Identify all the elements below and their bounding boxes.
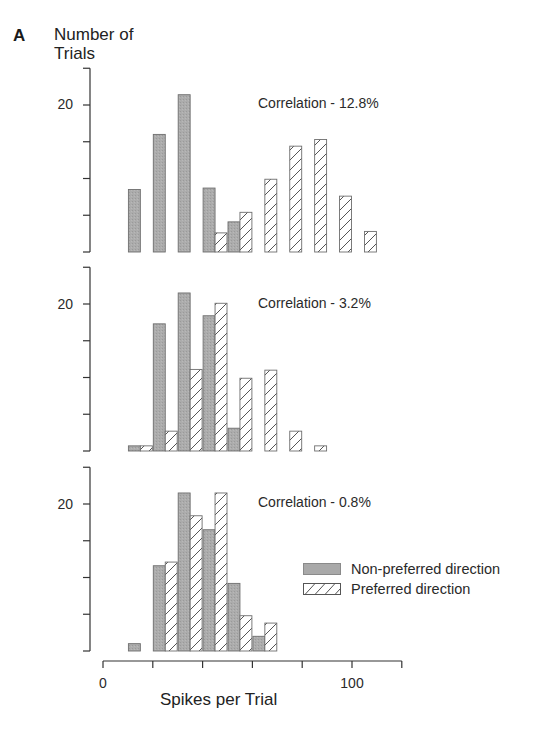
x-axis [103, 661, 402, 668]
bar-preferred [190, 369, 202, 451]
panel-1-ytick-20: 20 [51, 96, 73, 112]
xtick-label-100: 100 [340, 675, 363, 691]
bar-preferred [265, 370, 277, 451]
y-axis-label-line1: Number of [54, 25, 133, 44]
bar-preferred [215, 493, 227, 651]
bar-preferred [315, 140, 327, 252]
panel-letter: A [13, 26, 25, 46]
preferred-swatch-icon [303, 583, 341, 595]
bar-non-preferred [228, 583, 240, 651]
bar-non-preferred [203, 530, 215, 651]
non-preferred-swatch-icon [303, 563, 341, 575]
bar-preferred [165, 562, 177, 651]
panel-3-ytick-20: 20 [51, 496, 73, 512]
panel-2-correlation: Correlation - 3.2% [258, 295, 371, 311]
legend-label-non-preferred: Non-preferred direction [351, 561, 500, 577]
bar-non-preferred [153, 134, 165, 252]
bar-non-preferred [203, 316, 215, 451]
bar-preferred [265, 623, 277, 651]
bar-preferred [240, 378, 252, 451]
xtick-label-0: 0 [99, 675, 107, 691]
bar-non-preferred [178, 293, 190, 451]
bar-preferred [215, 303, 227, 451]
bar-non-preferred [128, 446, 140, 451]
bar-preferred [340, 196, 352, 252]
bar-non-preferred [228, 428, 240, 451]
panel-3-correlation: Correlation - 0.8% [258, 494, 371, 510]
bar-preferred [290, 431, 302, 451]
bar-preferred [315, 446, 327, 451]
bar-preferred [215, 233, 227, 252]
bar-preferred [240, 212, 252, 252]
bar-preferred [190, 516, 202, 651]
legend-item-non-preferred: Non-preferred direction [303, 559, 500, 579]
panel-1-correlation: Correlation - 12.8% [258, 95, 379, 111]
bar-non-preferred [203, 188, 215, 252]
panel-2-ytick-20: 20 [51, 296, 73, 312]
bar-non-preferred [253, 636, 265, 651]
y-axis-label: Number of Trials [54, 25, 133, 63]
legend: Non-preferred direction Preferred direct… [303, 559, 500, 599]
x-axis-label: Spikes per Trial [160, 690, 277, 710]
bar-non-preferred [153, 324, 165, 451]
bar-non-preferred [178, 493, 190, 651]
bar-non-preferred [153, 566, 165, 651]
bar-non-preferred [178, 95, 190, 252]
legend-label-preferred: Preferred direction [351, 581, 470, 597]
bar-non-preferred [128, 190, 140, 252]
histogram-panel-3 [83, 467, 277, 651]
bar-preferred [240, 616, 252, 651]
bar-non-preferred [128, 644, 140, 651]
bar-preferred [140, 446, 152, 451]
y-axis-label-line2: Trials [54, 44, 133, 63]
bar-preferred [165, 431, 177, 451]
bar-non-preferred [228, 222, 240, 252]
legend-item-preferred: Preferred direction [303, 579, 500, 599]
bar-preferred [364, 231, 376, 252]
bar-preferred [290, 146, 302, 252]
bar-preferred [265, 179, 277, 252]
